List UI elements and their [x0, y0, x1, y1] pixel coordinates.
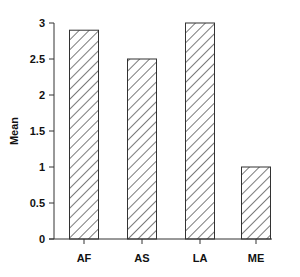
bar-as: [128, 59, 157, 239]
y-tick-label: 1.5: [30, 125, 45, 137]
x-tick-label: LA: [193, 252, 208, 264]
y-axis: 00.511.522.53: [30, 17, 54, 245]
y-tick-label: 2.5: [30, 53, 45, 65]
bar-chart: 00.511.522.53 AFASLAME Mean: [0, 0, 300, 277]
bar-me: [242, 167, 271, 239]
x-tick-label: AS: [134, 252, 149, 264]
y-tick-label: 0: [39, 233, 45, 245]
x-tick-label: AF: [77, 252, 92, 264]
bar-af: [70, 30, 99, 239]
y-tick-label: 3: [39, 17, 45, 29]
y-tick-label: 0.5: [30, 197, 45, 209]
y-tick-label: 2: [39, 89, 45, 101]
bars: [70, 23, 271, 239]
bar-la: [186, 23, 215, 239]
x-tick-label: ME: [248, 252, 265, 264]
x-axis: AFASLAME: [49, 239, 272, 264]
y-axis-title: Mean: [8, 117, 20, 145]
y-tick-label: 1: [39, 161, 45, 173]
